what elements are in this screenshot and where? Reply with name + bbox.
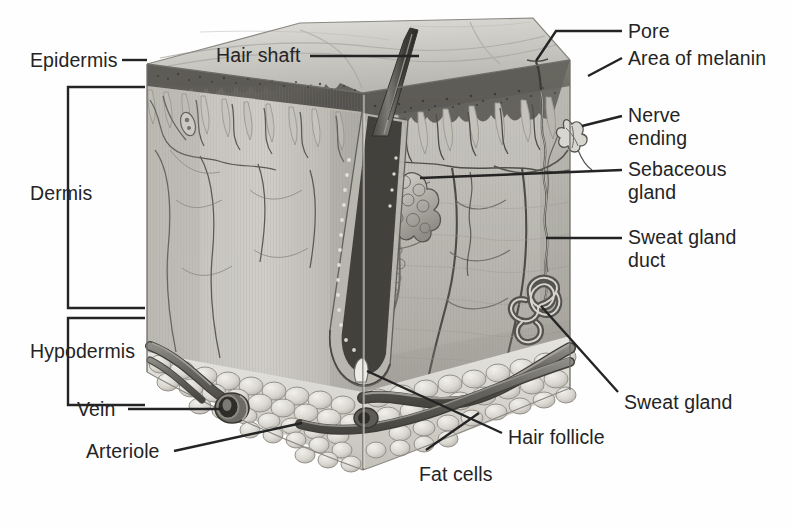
label-sweat-gland-duct: Sweat gland duct [628, 226, 736, 272]
label-arteriole: Arteriole [86, 440, 160, 463]
figure-canvas: Epidermis Dermis Hypodermis Vein Arterio… [0, 0, 792, 527]
arteriole-cut-end [354, 408, 378, 428]
label-hair-shaft: Hair shaft [216, 44, 300, 67]
label-hair-follicle: Hair follicle [508, 426, 605, 449]
label-pore: Pore [628, 20, 670, 43]
label-vein: Vein [77, 398, 115, 421]
label-fat-cells: Fat cells [419, 463, 493, 486]
label-dermis: Dermis [30, 182, 92, 205]
label-epidermis: Epidermis [30, 49, 118, 72]
vein-cut-end [215, 393, 249, 423]
label-sweat-gland: Sweat gland [624, 391, 732, 414]
label-area-of-melanin: Area of melanin [628, 47, 766, 70]
label-hypodermis: Hypodermis [30, 340, 135, 363]
label-sebaceous-gland: Sebaceous gland [628, 158, 726, 204]
label-nerve-ending: Nerve ending [628, 104, 687, 150]
